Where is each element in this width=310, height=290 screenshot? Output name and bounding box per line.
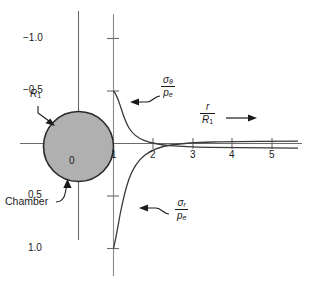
x-tick-label-1: 1 bbox=[111, 150, 117, 160]
stress-distribution-figure: −1.0 −0.5 0.5 1.0 1 2 3 4 5 0 R1 Chamber… bbox=[0, 0, 310, 290]
R1-denominator: R1 bbox=[200, 113, 215, 125]
sigma-theta-over-pe-label: σθ pe bbox=[161, 75, 175, 98]
y-tick-label-1-0: 1.0 bbox=[28, 243, 42, 253]
sigma-r-numerator: σr bbox=[175, 198, 188, 209]
x-tick-label-2: 2 bbox=[150, 150, 156, 160]
radius-label-sub: 1 bbox=[37, 92, 41, 99]
sigma-r-leader-arrow bbox=[147, 208, 170, 214]
sigma-theta-leader-arrow bbox=[138, 96, 161, 102]
chamber-label: Chamber bbox=[5, 196, 48, 207]
x-tick-label-4: 4 bbox=[229, 150, 235, 160]
sigma-r-over-pe-label: σr pe bbox=[175, 198, 188, 221]
sigma-r-denominator: pe bbox=[175, 209, 188, 221]
r-over-R1-label: r R1 bbox=[200, 102, 215, 125]
x-tick-label-5: 5 bbox=[269, 150, 275, 160]
chamber-circle bbox=[44, 112, 114, 182]
sigma-theta-arrowhead bbox=[130, 99, 139, 106]
r-direction-arrowhead bbox=[248, 114, 257, 121]
sigma-theta-denominator: pe bbox=[161, 86, 175, 98]
radius-label: R1 bbox=[30, 89, 41, 99]
origin-label: 0 bbox=[69, 156, 75, 166]
radius-leader-line bbox=[38, 106, 49, 121]
chamber-leader-line bbox=[56, 186, 67, 202]
figure-canvas bbox=[0, 0, 310, 290]
r-numerator: r bbox=[200, 102, 215, 113]
x-tick-label-3: 3 bbox=[190, 150, 196, 160]
sigma-theta-numerator: σθ bbox=[161, 75, 175, 86]
y-tick-label-neg-1-0: −1.0 bbox=[23, 33, 43, 43]
sigma-r-arrowhead bbox=[139, 205, 148, 212]
